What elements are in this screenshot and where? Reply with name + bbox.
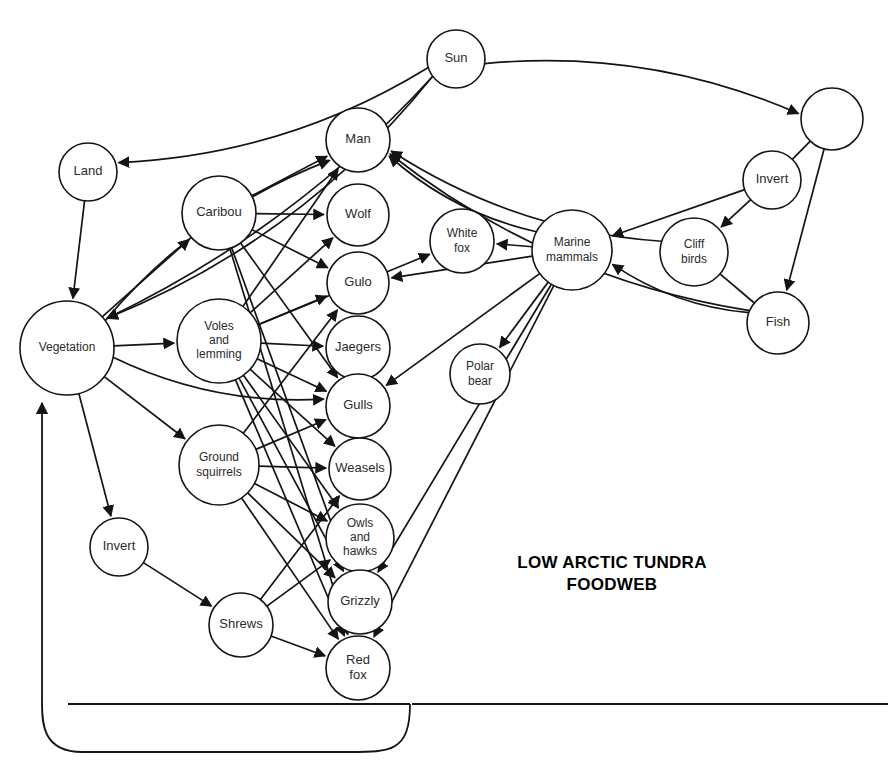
foodweb-node-wolf[interactable]: Wolf — [327, 184, 389, 246]
node-circle — [532, 210, 612, 290]
detritus-layer — [42, 403, 888, 752]
foodweb-node-voles[interactable]: Volesandlemming — [177, 299, 261, 383]
node-circle — [801, 88, 863, 150]
foodweb-edge — [259, 466, 326, 468]
node-circle — [177, 299, 261, 383]
foodweb-node-plankton[interactable] — [801, 88, 863, 150]
foodweb-edge — [257, 359, 326, 391]
foodweb-edge — [255, 483, 328, 521]
foodweb-node-whitefox[interactable]: Whitefox — [430, 209, 494, 273]
foodweb-node-weasels[interactable]: Weasels — [329, 438, 391, 500]
foodweb-node-jaegers[interactable]: Jaegers — [326, 316, 390, 380]
node-circle — [182, 176, 256, 250]
foodweb-edge — [500, 282, 549, 347]
node-circle — [326, 108, 390, 172]
foodweb-node-marine[interactable]: Marinemammals — [532, 210, 612, 290]
foodweb-edge — [73, 201, 85, 299]
foodweb-diagram: SunLandManInvertCaribouWolfWhitefoxMarin… — [0, 0, 888, 771]
diagram-title-line2: FOODWEB — [567, 575, 658, 594]
foodweb-edge — [256, 420, 326, 450]
foodweb-node-redfox[interactable]: Redfox — [326, 636, 390, 700]
foodweb-edge — [256, 214, 324, 215]
node-circle — [430, 209, 494, 273]
foodweb-node-groundsq[interactable]: Groundsquirrels — [179, 425, 259, 505]
node-circle — [450, 344, 510, 404]
foodweb-node-man[interactable]: Man — [326, 108, 390, 172]
nodes-layer: SunLandManInvertCaribouWolfWhitefoxMarin… — [20, 30, 863, 700]
foodweb-node-polarbear[interactable]: Polarbear — [450, 344, 510, 404]
node-circle — [179, 425, 259, 505]
foodweb-node-shrews[interactable]: Shrews — [209, 593, 273, 657]
node-circle — [326, 316, 390, 380]
node-circle — [20, 301, 114, 395]
foodweb-edge — [104, 377, 185, 439]
foodweb-edge — [792, 141, 810, 159]
foodweb-edge — [497, 244, 532, 247]
foodweb-edge — [252, 230, 328, 268]
foodweb-edge — [720, 274, 754, 303]
foodweb-node-sun[interactable]: Sun — [427, 30, 485, 88]
diagram-title-line1: LOW ARCTIC TUNDRA — [517, 553, 707, 572]
foodweb-node-fish[interactable]: Fish — [747, 292, 809, 354]
foodweb-edge — [243, 375, 338, 508]
foodweb-edge — [252, 156, 327, 196]
node-circle — [660, 218, 728, 286]
foodweb-node-caribou[interactable]: Caribou — [182, 176, 256, 250]
node-circle — [328, 570, 392, 634]
node-circle — [326, 636, 390, 700]
foodweb-node-cliffbirds[interactable]: Cliffbirds — [660, 218, 728, 286]
node-circle — [326, 374, 390, 438]
node-circle — [743, 151, 801, 209]
foodweb-node-grizzly[interactable]: Grizzly — [328, 570, 392, 634]
foodweb-edge — [267, 560, 330, 606]
foodweb-edge — [721, 200, 751, 227]
foodweb-edge — [79, 393, 111, 516]
node-circle — [427, 30, 485, 88]
foodweb-node-gulo[interactable]: Gulo — [327, 252, 389, 314]
foodweb-node-vegetation[interactable]: Vegetation — [20, 301, 114, 395]
foodweb-edge — [114, 343, 174, 346]
foodweb-edge — [143, 563, 211, 607]
node-circle — [90, 518, 148, 576]
node-circle — [327, 184, 389, 246]
foodweb-edge — [271, 636, 325, 656]
node-circle — [59, 143, 117, 201]
foodweb-node-owls[interactable]: Owlsandhawks — [326, 504, 394, 572]
foodweb-edge — [485, 61, 799, 114]
node-circle — [327, 252, 389, 314]
foodweb-canvas: SunLandManInvertCaribouWolfWhitefoxMarin… — [0, 0, 888, 771]
node-circle — [747, 292, 809, 354]
foodweb-edge — [374, 286, 554, 637]
node-circle — [329, 438, 391, 500]
foodweb-node-invert_land[interactable]: Invert — [90, 518, 148, 576]
foodweb-node-invert_sea[interactable]: Invert — [743, 151, 801, 209]
node-circle — [326, 504, 394, 572]
foodweb-node-land[interactable]: Land — [59, 143, 117, 201]
foodweb-node-gulls[interactable]: Gulls — [326, 374, 390, 438]
node-circle — [209, 593, 273, 657]
foodweb-edge — [391, 151, 662, 241]
